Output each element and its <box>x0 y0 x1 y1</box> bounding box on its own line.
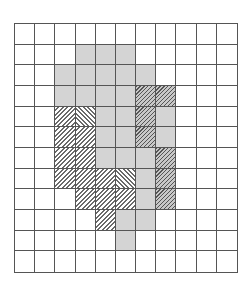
grid-cell-empty <box>176 127 196 148</box>
grid-cell-empty <box>35 251 55 272</box>
grid-cell-empty <box>55 210 75 231</box>
grid-cell-empty <box>35 231 55 252</box>
grid-cell-hr <box>55 127 75 148</box>
grid-cell-empty <box>116 24 136 45</box>
grid-cell-dk <box>136 127 156 148</box>
grid-cell-empty <box>35 107 55 128</box>
grid-cell-empty <box>15 127 35 148</box>
grid-cell-empty <box>176 210 196 231</box>
grid-cell-gray <box>55 86 75 107</box>
grid-cell-empty <box>217 24 237 45</box>
grid-cell-empty <box>217 148 237 169</box>
grid-cell-dk <box>156 189 176 210</box>
grid-cell-empty <box>15 189 35 210</box>
grid-cell-dk <box>156 148 176 169</box>
grid-cell-gray <box>156 127 176 148</box>
grid-cell-gray <box>116 86 136 107</box>
grid-cell-gray <box>116 45 136 66</box>
grid-cell-empty <box>15 210 35 231</box>
grid-cell-empty <box>35 127 55 148</box>
grid-cell-empty <box>197 107 217 128</box>
grid-cell-hr <box>76 189 96 210</box>
grid-cell-hr <box>55 107 75 128</box>
grid-cell-empty <box>15 251 35 272</box>
grid-cell-empty <box>15 231 35 252</box>
grid-cell-empty <box>217 169 237 190</box>
grid-cell-empty <box>176 189 196 210</box>
grid-cell-gray <box>76 45 96 66</box>
grid-cell-empty <box>15 148 35 169</box>
grid-cell-gray <box>116 107 136 128</box>
grid-cell-empty <box>217 189 237 210</box>
grid-cell-empty <box>35 24 55 45</box>
grid-cell-dk <box>136 86 156 107</box>
grid-cell-hr <box>55 169 75 190</box>
grid-cell-empty <box>76 251 96 272</box>
grid-cell-empty <box>197 45 217 66</box>
grid-cell-empty <box>55 45 75 66</box>
grid-cell-empty <box>15 169 35 190</box>
grid-cell-empty <box>197 148 217 169</box>
grid-cell-hr <box>96 210 116 231</box>
grid-cell-hl <box>116 169 136 190</box>
grid-cell-gray <box>136 169 156 190</box>
grid-cell-gray <box>96 45 116 66</box>
grid-cell-hr <box>116 189 136 210</box>
grid-cell-empty <box>136 24 156 45</box>
grid-cell-empty <box>55 231 75 252</box>
grid-cell-empty <box>197 65 217 86</box>
grid-cell-empty <box>176 24 196 45</box>
grid-cell-hr <box>76 169 96 190</box>
grid-cell-dk <box>136 107 156 128</box>
grid-cell-gray <box>136 65 156 86</box>
grid-cell-empty <box>156 251 176 272</box>
grid-cell-empty <box>176 45 196 66</box>
grid-cell-empty <box>116 251 136 272</box>
grid-cell-hr <box>76 148 96 169</box>
grid-cell-hr <box>96 189 116 210</box>
grid-cell-empty <box>35 148 55 169</box>
grid-cell-empty <box>76 231 96 252</box>
grid-cell-gray <box>96 86 116 107</box>
grid-cell-empty <box>136 45 156 66</box>
grid-cell-gray <box>116 148 136 169</box>
grid-cell-empty <box>217 45 237 66</box>
grid-cell-hr <box>76 127 96 148</box>
grid-cell-empty <box>156 210 176 231</box>
grid-cell-empty <box>197 189 217 210</box>
grid-cell-empty <box>156 65 176 86</box>
grid-cell-empty <box>197 251 217 272</box>
grid-cell-gray <box>55 65 75 86</box>
grid-cell-empty <box>176 169 196 190</box>
grid-cell-empty <box>15 24 35 45</box>
grid-cell-gray <box>96 148 116 169</box>
grid-cell-empty <box>217 65 237 86</box>
grid-cell-empty <box>55 189 75 210</box>
grid-cell-empty <box>35 65 55 86</box>
grid-cell-gray <box>136 148 156 169</box>
grid-cell-empty <box>197 86 217 107</box>
grid-cell-empty <box>136 231 156 252</box>
grid-cell-empty <box>217 251 237 272</box>
grid-cell-empty <box>217 86 237 107</box>
grid-cell-empty <box>197 169 217 190</box>
grid-cell-gray <box>76 65 96 86</box>
grid-cell-empty <box>156 231 176 252</box>
grid-cell-empty <box>197 24 217 45</box>
grid-cell-hr <box>55 148 75 169</box>
grid-cell-empty <box>15 107 35 128</box>
grid-cell-gray <box>116 210 136 231</box>
grid-cell-empty <box>176 86 196 107</box>
grid-cell-dk <box>156 169 176 190</box>
grid-cell-empty <box>217 210 237 231</box>
grid-cell-empty <box>96 24 116 45</box>
grid-cell-empty <box>76 210 96 231</box>
grid-cell-gray <box>76 86 96 107</box>
grid-cell-empty <box>96 251 116 272</box>
grid-cell-empty <box>176 107 196 128</box>
grid-cell-empty <box>96 231 116 252</box>
grid-cell-empty <box>176 148 196 169</box>
grid-cell-empty <box>55 24 75 45</box>
grid-cell-empty <box>15 45 35 66</box>
grid-cell-gray <box>116 231 136 252</box>
